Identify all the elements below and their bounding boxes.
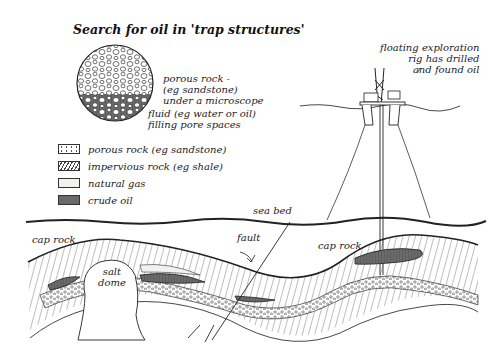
- label-line: under a microscope: [163, 95, 263, 106]
- legend-item-impervious: impervious rock (eg shale): [58, 160, 223, 172]
- label-line: (eg sandstone): [163, 84, 263, 95]
- fault-label: fault: [237, 232, 260, 243]
- legend-item-porous: porous rock (eg sandstone): [58, 143, 226, 155]
- cap-rock-left-label: cap rock: [32, 234, 76, 245]
- microscope-view: [70, 40, 160, 135]
- porous-swatch-icon: [58, 144, 80, 154]
- label-line: porous rock -: [163, 73, 263, 84]
- label-line: salt: [98, 266, 126, 277]
- legend-label: natural gas: [88, 178, 145, 189]
- gas-swatch-icon: [58, 178, 80, 188]
- legend-item-gas: natural gas: [58, 177, 145, 189]
- legend-label: crude oil: [88, 195, 133, 206]
- label-line: filling pore spaces: [148, 119, 256, 130]
- salt-dome-label: salt dome: [98, 266, 126, 288]
- label-line: floating exploration: [380, 42, 480, 53]
- label-line: rig has drilled: [380, 53, 480, 64]
- cap-rock-right-label: cap rock: [318, 240, 362, 251]
- legend-item-oil: crude oil: [58, 194, 133, 206]
- microscope-rock-label: porous rock - (eg sandstone) under a mic…: [163, 73, 263, 106]
- rig-label: floating exploration rig has drilled and…: [380, 42, 480, 75]
- legend-label: porous rock (eg sandstone): [88, 144, 226, 155]
- microscope-fluid-label: fluid (eg water or oil) filling pore spa…: [148, 108, 256, 130]
- sea-bed-label: sea bed: [253, 205, 292, 216]
- legend-label: impervious rock (eg shale): [88, 161, 223, 172]
- label-line: and found oil: [380, 64, 480, 75]
- label-line: fluid (eg water or oil): [148, 108, 256, 119]
- label-line: dome: [98, 277, 126, 288]
- impervious-swatch-icon: [58, 161, 80, 171]
- oil-swatch-icon: [58, 195, 80, 205]
